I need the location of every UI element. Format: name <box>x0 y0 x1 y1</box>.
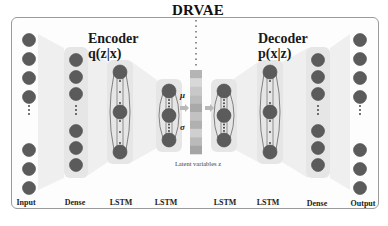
latent-cell <box>190 112 202 121</box>
ellipsis-dot <box>269 102 271 104</box>
ellipsis-dot <box>269 91 271 93</box>
layer-label-output: Output <box>343 199 383 208</box>
sigma-label: σ <box>180 122 185 132</box>
layer-label-dense: Dense <box>297 199 337 208</box>
encoder-title: Encoder <box>88 31 139 46</box>
ellipsis-dot <box>317 109 319 111</box>
ellipsis-dot <box>223 106 225 108</box>
neuron <box>70 125 83 138</box>
neuron <box>23 163 36 176</box>
neuron <box>23 53 36 66</box>
ellipsis-dot <box>359 109 361 111</box>
ellipsis-dot <box>168 124 170 126</box>
layer-label-lstm: LSTM <box>205 198 245 207</box>
neuron <box>162 84 176 98</box>
ellipsis-dot <box>168 127 170 129</box>
neuron <box>70 54 83 67</box>
neuron <box>312 125 325 138</box>
ellipsis-dot <box>119 131 121 133</box>
neuron <box>70 88 83 101</box>
ellipsis-dot <box>269 80 271 82</box>
neuron <box>217 109 231 123</box>
ellipsis-dot <box>168 106 170 108</box>
neuron <box>23 34 36 47</box>
latent-caption: Latent variables z <box>168 160 228 167</box>
neuron <box>354 163 367 176</box>
neuron <box>354 144 367 157</box>
neuron <box>217 84 231 98</box>
neuron <box>162 133 176 147</box>
neuron <box>70 71 83 84</box>
ellipsis-dot <box>223 99 225 101</box>
neuron <box>354 72 367 85</box>
latent-cell <box>190 104 202 113</box>
encoder-formula: q(z|x) <box>88 46 139 61</box>
latent-cell <box>190 70 202 79</box>
ellipsis-dot <box>75 105 77 107</box>
ellipsis-dot <box>269 142 271 144</box>
neuron <box>354 53 367 66</box>
latent-cell <box>190 87 202 96</box>
latent-cell <box>190 146 202 155</box>
ellipsis-dot <box>223 124 225 126</box>
latent-cell <box>190 129 202 138</box>
ellipsis-dot <box>119 120 121 122</box>
neuron <box>70 142 83 155</box>
ellipsis-dot <box>359 113 361 115</box>
latent-cell <box>190 120 202 129</box>
encoder-heading: Encoder q(z|x) <box>88 31 139 61</box>
neuron <box>23 144 36 157</box>
ellipsis-dot <box>223 127 225 129</box>
ellipsis-dot <box>223 130 225 132</box>
layer-label-input: Input <box>6 198 46 207</box>
layer-label-lstm: LSTM <box>248 198 288 207</box>
neuron <box>312 142 325 155</box>
ellipsis-dot <box>119 80 121 82</box>
mu-label: μ <box>180 90 185 100</box>
connection-funnel <box>132 62 157 162</box>
neuron <box>312 71 325 84</box>
neuron <box>354 91 367 104</box>
ellipsis-dot <box>119 102 121 104</box>
decoder-heading: Decoder p(x|z) <box>258 31 308 61</box>
ellipsis-dot <box>269 131 271 133</box>
network-graphic <box>0 0 388 226</box>
ellipsis-dot <box>75 109 77 111</box>
ellipsis-dot <box>28 105 30 107</box>
neuron <box>263 105 277 119</box>
layer-label-lstm: LSTM <box>101 198 141 207</box>
layer-label-dense: Dense <box>55 198 95 207</box>
neuron <box>312 159 325 172</box>
neuron <box>354 34 367 47</box>
neuron <box>113 145 127 159</box>
ellipsis-dot <box>317 113 319 115</box>
ellipsis-dot <box>28 113 30 115</box>
ellipsis-dot <box>269 120 271 122</box>
decoder-title: Decoder <box>258 31 308 46</box>
neuron <box>312 54 325 67</box>
ellipsis-dot <box>317 105 319 107</box>
neuron <box>70 159 83 172</box>
layer-label-lstm: LSTM <box>146 198 186 207</box>
neuron <box>263 145 277 159</box>
ellipsis-dot <box>75 113 77 115</box>
ellipsis-dot <box>359 105 361 107</box>
neuron <box>263 65 277 79</box>
ellipsis-dot <box>28 109 30 111</box>
neuron <box>23 91 36 104</box>
ellipsis-dot <box>119 142 121 144</box>
ellipsis-dot <box>119 91 121 93</box>
connection-funnel <box>282 48 308 178</box>
neuron <box>23 72 36 85</box>
drvae-diagram: DRVAE Encoder q(z|x) Decoder p(x|z) μ σ … <box>0 0 388 226</box>
neuron <box>217 133 231 147</box>
ellipsis-dot <box>168 102 170 104</box>
decoder-formula: p(x|z) <box>258 46 308 61</box>
connection-funnel <box>330 34 350 190</box>
ellipsis-dot <box>223 102 225 104</box>
latent-cell <box>190 137 202 146</box>
connection-funnel <box>38 34 64 190</box>
latent-cell <box>190 95 202 104</box>
neuron <box>162 109 176 123</box>
neuron <box>23 182 36 195</box>
